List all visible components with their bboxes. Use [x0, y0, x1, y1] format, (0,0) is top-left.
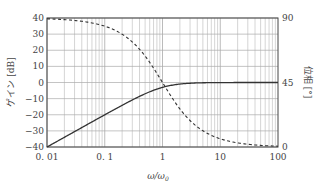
x-tick-label: 0. 1 [96, 152, 113, 162]
y-right-axis-label: 位相 [°] [303, 66, 314, 98]
x-axis-label: ω/ω0 [147, 171, 169, 182]
y-left-tick-label: 10 [33, 61, 45, 71]
y-left-tick-labels: 403020100−10−20−30−40 [25, 13, 44, 152]
y-left-tick-label: 20 [33, 45, 45, 55]
y-left-tick-label: −40 [25, 142, 44, 152]
y-left-tick-label: 30 [33, 29, 45, 39]
x-tick-label: 1 [160, 152, 166, 162]
bode-plot: 0. 010. 1110100 403020100−10−20−30−40 90… [0, 0, 318, 189]
y-left-tick-label: −20 [25, 110, 44, 120]
y-left-axis-label: ゲイン [dB] [5, 57, 16, 106]
y-left-tick-label: 40 [33, 13, 45, 23]
x-tick-label: 0. 01 [36, 152, 59, 162]
y-left-tick-label: 0 [38, 78, 44, 88]
y-left-tick-label: −30 [25, 126, 44, 136]
x-axis-label-main: ω/ω [147, 171, 165, 181]
y-right-tick-label: 90 [282, 13, 294, 23]
y-right-tick-labels: 90450 [282, 13, 294, 152]
x-tick-labels: 0. 010. 1110100 [36, 152, 287, 162]
y-right-tick-label: 45 [282, 78, 294, 88]
x-tick-label: 10 [215, 152, 227, 162]
x-axis-label-sub: 0 [165, 175, 169, 182]
x-tick-label: 100 [269, 152, 286, 162]
y-left-tick-label: −10 [25, 94, 44, 104]
y-right-tick-label: 0 [282, 142, 288, 152]
